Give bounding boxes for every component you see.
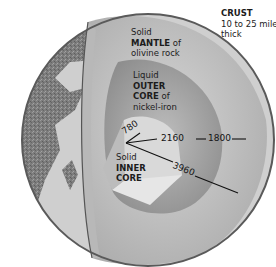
inner-core-label: Solid INNER CORE	[116, 152, 146, 184]
outer-core-material: nickel-iron	[133, 102, 177, 113]
outer-core-of: of	[159, 91, 170, 101]
mantle-of: of	[170, 38, 181, 48]
mantle-thickness-value: 1800	[208, 133, 231, 143]
outer-core-state: Liquid	[133, 70, 177, 81]
crust-thickness-unit: thick	[221, 29, 276, 40]
crust-label: CRUST 10 to 25 miles thick	[221, 8, 276, 40]
mantle-label: Solid MANTLE of olivine rock	[131, 27, 181, 59]
mantle-material: olivine rock	[131, 48, 181, 59]
mantle-title: MANTLE	[131, 38, 170, 48]
outer-core-title-1: OUTER	[133, 81, 165, 91]
earth-cross-section-diagram: CRUST 10 to 25 miles thick Solid MANTLE …	[0, 0, 276, 267]
inner-core-title-1: INNER	[116, 163, 146, 173]
outer-core-label: Liquid OUTER CORE of nickel-iron	[133, 70, 177, 112]
outer-core-title-2: CORE	[133, 91, 159, 101]
inner-core-state: Solid	[116, 152, 146, 163]
crust-thickness: 10 to 25 miles	[221, 19, 276, 30]
crust-title: CRUST	[221, 8, 253, 18]
inner-core-title-2: CORE	[116, 173, 142, 183]
outer-core-thickness-value: 2160	[161, 133, 184, 143]
mantle-state: Solid	[131, 27, 181, 38]
